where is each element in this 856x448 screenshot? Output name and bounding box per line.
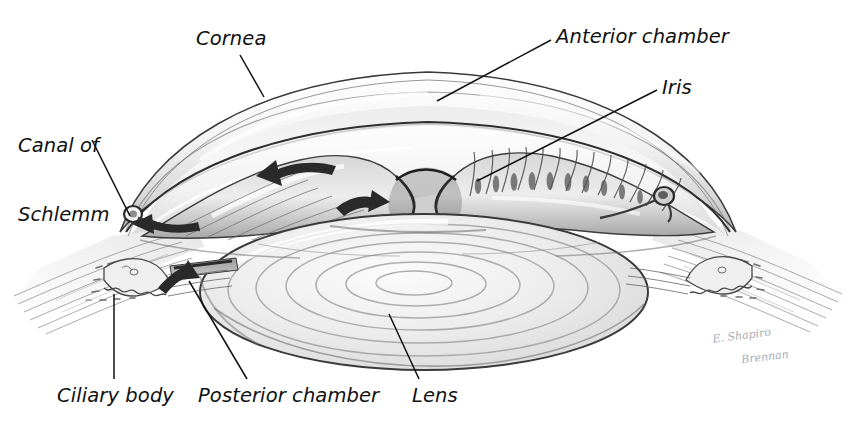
eye-anatomy-figure: Cornea Canal of Schlemm Anterior chamber… bbox=[0, 0, 856, 448]
eye-cross-section-illustration bbox=[0, 0, 856, 448]
lens-structure bbox=[200, 214, 648, 370]
artist-signature: E. Shapiro Brennan bbox=[697, 313, 791, 384]
label-canal-line1: Canal of bbox=[18, 134, 110, 157]
signature-line1: E. Shapiro bbox=[712, 326, 772, 346]
signature-line2: Brennan bbox=[741, 349, 790, 367]
label-canal-line2: Schlemm bbox=[18, 203, 110, 226]
label-anterior-chamber: Anterior chamber bbox=[556, 26, 729, 48]
label-cornea: Cornea bbox=[196, 28, 266, 50]
label-posterior-chamber: Posterior chamber bbox=[198, 385, 379, 407]
ciliary-body-left bbox=[104, 259, 170, 296]
leader-line-cornea bbox=[240, 55, 264, 97]
label-iris: Iris bbox=[662, 77, 692, 99]
label-canal-of-schlemm: Canal of Schlemm bbox=[18, 88, 110, 272]
label-lens: Lens bbox=[412, 385, 458, 407]
label-ciliary-body: Ciliary body bbox=[57, 385, 174, 407]
ciliary-body-right bbox=[686, 257, 752, 294]
